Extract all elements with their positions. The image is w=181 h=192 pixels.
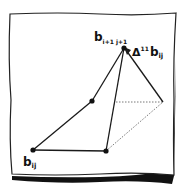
diagram-canvas: bi+1 j+1 Δ11bij bij	[0, 0, 181, 192]
point-bi1j	[103, 148, 108, 153]
point-bij1	[89, 98, 94, 103]
point-bij	[30, 147, 35, 152]
point-apex	[121, 45, 126, 50]
